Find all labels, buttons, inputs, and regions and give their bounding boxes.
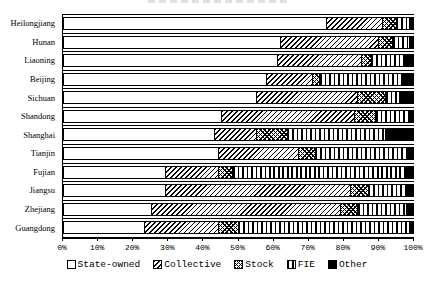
- x-axis-tick-label: 0%: [57, 243, 67, 252]
- segment-other: [399, 92, 413, 103]
- x-axis-tick-label: 40%: [195, 243, 209, 252]
- segment-other: [385, 129, 413, 140]
- x-axis-tick: [167, 238, 168, 241]
- segment-stock: [361, 55, 371, 66]
- legend-label: Stock: [245, 259, 274, 270]
- legend-label: FIE: [298, 259, 315, 270]
- chart-figure: HeilongjiangHunanLiaoningBeijingSichuanS…: [0, 0, 434, 290]
- segment-stock: [354, 111, 375, 122]
- stacked-bar-fujian: [63, 166, 414, 179]
- segment-other: [403, 55, 413, 66]
- bar-row-guangdong: [63, 218, 414, 237]
- x-axis-tick: [273, 238, 274, 241]
- x-axis-tick: [62, 238, 63, 241]
- solid-white-swatch-icon: [67, 260, 76, 269]
- segment-fie: [371, 55, 402, 66]
- category-label-heilongjiang: Heilongjiang: [0, 14, 59, 33]
- segment-collective: [151, 204, 339, 215]
- bar-row-jiangsu: [63, 181, 414, 200]
- stacked-bar-hunan: [63, 36, 414, 49]
- bar-row-liaoning: [63, 51, 414, 70]
- category-label-fujian: Fujian: [0, 163, 59, 182]
- segment-other: [409, 222, 412, 233]
- segment-other: [406, 148, 413, 159]
- segment-state-owned: [64, 222, 144, 233]
- segment-fie: [287, 129, 385, 140]
- stacked-bar-zhejiang: [63, 203, 414, 216]
- segment-collective: [280, 37, 378, 48]
- segment-other: [409, 37, 412, 48]
- segment-other: [406, 204, 413, 215]
- segment-fie: [396, 18, 410, 29]
- category-label-jiangsu: Jiangsu: [0, 181, 59, 200]
- x-axis-tick-label: 60%: [265, 243, 279, 252]
- segment-collective: [218, 148, 298, 159]
- stacked-bar-jiangsu: [63, 184, 414, 197]
- segment-fie: [315, 148, 406, 159]
- segment-stock: [378, 37, 392, 48]
- bar-row-shanghai: [63, 125, 414, 144]
- category-label-zhejiang: Zhejiang: [0, 200, 59, 219]
- segment-fie: [368, 185, 406, 196]
- category-label-beijing: Beijing: [0, 70, 59, 89]
- cropped-title-fragment: [148, 0, 290, 3]
- crosshatch-swatch-icon: [234, 260, 243, 269]
- vertical-lines-swatch-icon: [287, 260, 296, 269]
- segment-other: [406, 167, 413, 178]
- x-axis-tick-label: 80%: [336, 243, 350, 252]
- stacked-bar-shanghai: [63, 128, 414, 141]
- x-axis-tick-label: 100%: [403, 243, 422, 252]
- legend-label: State-owned: [78, 259, 141, 270]
- segment-collective: [326, 18, 382, 29]
- segment-state-owned: [64, 167, 165, 178]
- segment-fie: [232, 167, 407, 178]
- segment-stock: [256, 129, 287, 140]
- segment-collective: [221, 111, 354, 122]
- segment-fie: [385, 92, 399, 103]
- segment-stock: [218, 167, 232, 178]
- segment-stock: [298, 148, 315, 159]
- segment-state-owned: [64, 55, 277, 66]
- stacked-bar-shandong: [63, 110, 414, 123]
- legend-item-other: Other: [328, 259, 368, 270]
- legend-item-fie: FIE: [287, 259, 315, 270]
- segment-state-owned: [64, 18, 326, 29]
- x-axis-tick: [343, 238, 344, 241]
- x-axis-tick: [202, 238, 203, 241]
- segment-stock: [382, 18, 396, 29]
- legend-item-collective: Collective: [153, 259, 221, 270]
- segment-state-owned: [64, 92, 256, 103]
- x-axis-tick-label: 90%: [371, 243, 385, 252]
- segment-other: [402, 74, 412, 85]
- category-label-shandong: Shandong: [0, 107, 59, 126]
- x-axis-tick-label: 10%: [90, 243, 104, 252]
- stacked-bar-guangdong: [63, 221, 414, 234]
- segment-collective: [144, 222, 217, 233]
- segment-fie: [319, 74, 403, 85]
- segment-stock: [357, 92, 385, 103]
- bar-row-hunan: [63, 33, 414, 52]
- x-axis-labels: 0%10%20%30%40%50%60%70%80%90%100%: [62, 240, 413, 254]
- legend-item-stock: Stock: [234, 259, 274, 270]
- solid-black-swatch-icon: [328, 260, 337, 269]
- segment-stock: [312, 74, 319, 85]
- legend-label: Other: [339, 259, 368, 270]
- bar-row-sichuan: [63, 88, 414, 107]
- segment-stock: [218, 222, 239, 233]
- segment-state-owned: [64, 111, 221, 122]
- segment-other: [406, 185, 413, 196]
- category-label-liaoning: Liaoning: [0, 51, 59, 70]
- x-axis-tick: [413, 238, 414, 241]
- bar-row-fujian: [63, 163, 414, 182]
- bar-row-heilongjiang: [63, 14, 414, 33]
- segment-state-owned: [64, 185, 165, 196]
- x-axis-tick: [132, 238, 133, 241]
- segment-collective: [214, 129, 256, 140]
- segment-collective: [165, 167, 217, 178]
- segment-other: [409, 111, 412, 122]
- category-label-guangdong: Guangdong: [0, 218, 59, 237]
- segment-collective: [256, 92, 357, 103]
- stacked-bar-heilongjiang: [63, 17, 414, 30]
- segment-fie: [375, 111, 410, 122]
- plot-area: [62, 14, 414, 239]
